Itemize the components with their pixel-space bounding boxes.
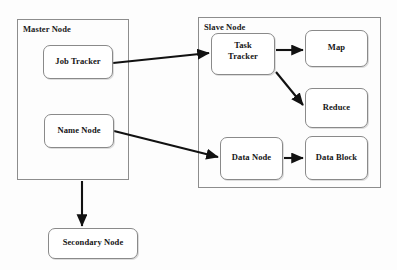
node-name-node-label: Name Node (57, 125, 100, 138)
node-task-tracker[interactable]: Task Tracker (211, 33, 275, 75)
slave-node-label: Slave Node (204, 22, 245, 32)
node-secondary-node[interactable]: Secondary Node (48, 228, 138, 259)
diagram-canvas: Master Node Slave Node Job Tracker Name … (0, 0, 397, 270)
node-data-node-label: Data Node (232, 152, 271, 165)
node-task-tracker-label: Task Tracker (228, 40, 258, 68)
node-reduce[interactable]: Reduce (305, 88, 368, 128)
node-map[interactable]: Map (305, 30, 368, 67)
master-node-label: Master Node (23, 24, 71, 34)
node-data-block-label: Data Block (316, 152, 357, 165)
node-job-tracker[interactable]: Job Tracker (43, 45, 113, 79)
node-name-node[interactable]: Name Node (44, 114, 114, 148)
master-node-container (17, 19, 129, 180)
node-map-label: Map (328, 42, 345, 55)
node-data-block[interactable]: Data Block (305, 136, 368, 180)
node-reduce-label: Reduce (323, 102, 351, 115)
node-job-tracker-label: Job Tracker (55, 56, 100, 69)
node-secondary-node-label: Secondary Node (63, 237, 124, 250)
node-data-node[interactable]: Data Node (220, 137, 283, 180)
